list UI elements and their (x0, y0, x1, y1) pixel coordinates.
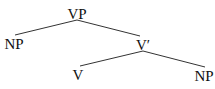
edge-v-bar-v (80, 51, 143, 66)
edge-vp-np-subject (15, 20, 77, 35)
edge-vp-v-bar (77, 20, 140, 36)
edge-v-bar-np-object (143, 51, 205, 67)
node-np-subject: NP (4, 37, 23, 52)
node-np-object: NP (194, 69, 213, 84)
node-v: V (73, 68, 84, 83)
node-vp: VP (67, 7, 86, 22)
node-v-bar: V′ (136, 38, 150, 53)
tree-edges (0, 0, 215, 89)
